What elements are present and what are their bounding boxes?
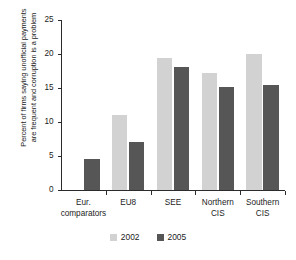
bar-eur-comparators-2005 bbox=[84, 159, 100, 190]
y-axis-tick-5: 5 bbox=[58, 156, 62, 157]
bar-chart-figure: Percent of firms saying unofficial payme… bbox=[0, 0, 296, 260]
x-axis-tick-5 bbox=[285, 191, 286, 195]
y-axis-title-line1: Percent of firms saying unofficial payme… bbox=[19, 9, 28, 147]
y-axis-tick-label-20: 20 bbox=[44, 49, 53, 59]
chart-legend: 20022005 bbox=[0, 232, 296, 242]
legend-swatch-2002 bbox=[110, 234, 117, 241]
bar-northern-cis-2005 bbox=[219, 87, 235, 190]
x-axis-tick-3 bbox=[195, 191, 196, 195]
y-axis-title-line2: are frequent and corruption is a problem bbox=[29, 0, 39, 164]
legend-label-2005: 2005 bbox=[168, 232, 187, 242]
bar-southern-cis-2005 bbox=[263, 85, 279, 190]
x-axis-label-line: Southern bbox=[232, 198, 293, 209]
x-axis-line bbox=[61, 190, 285, 191]
y-axis-line bbox=[61, 20, 62, 190]
bar-southern-cis-2002 bbox=[246, 54, 262, 190]
x-axis-tick-2 bbox=[151, 191, 152, 195]
y-axis-tick-label-25: 25 bbox=[44, 15, 53, 25]
y-axis-tick-20: 20 bbox=[58, 54, 62, 55]
y-axis-tick-0: 0 bbox=[58, 190, 62, 191]
legend-swatch-2005 bbox=[157, 234, 164, 241]
bar-see-2002 bbox=[157, 58, 173, 190]
y-axis-tick-25: 25 bbox=[58, 20, 62, 21]
x-axis-label-line: CIS bbox=[232, 209, 293, 220]
plot-area: 0510152025 bbox=[61, 20, 285, 190]
legend-entry-2005[interactable]: 2005 bbox=[157, 232, 187, 242]
y-axis-title: Percent of firms saying unofficial payme… bbox=[0, 0, 40, 195]
y-axis-tick-label-15: 15 bbox=[44, 83, 53, 93]
legend-label-2002: 2002 bbox=[121, 232, 140, 242]
x-axis-tick-4 bbox=[240, 191, 241, 195]
bar-eu8-2002 bbox=[112, 115, 128, 190]
x-axis-tick-1 bbox=[106, 191, 107, 195]
y-axis-tick-label-0: 0 bbox=[49, 185, 54, 195]
bar-see-2005 bbox=[174, 67, 190, 190]
legend-entry-2002[interactable]: 2002 bbox=[110, 232, 140, 242]
y-axis-tick-label-10: 10 bbox=[44, 117, 53, 127]
x-axis-label-line: comparators bbox=[53, 209, 114, 220]
bar-northern-cis-2002 bbox=[202, 73, 218, 190]
bar-eu8-2005 bbox=[129, 142, 145, 190]
y-axis-tick-label-5: 5 bbox=[49, 151, 54, 161]
y-axis-tick-10: 10 bbox=[58, 122, 62, 123]
x-axis-label-southern-cis: SouthernCIS bbox=[232, 198, 293, 219]
y-axis-tick-15: 15 bbox=[58, 88, 62, 89]
